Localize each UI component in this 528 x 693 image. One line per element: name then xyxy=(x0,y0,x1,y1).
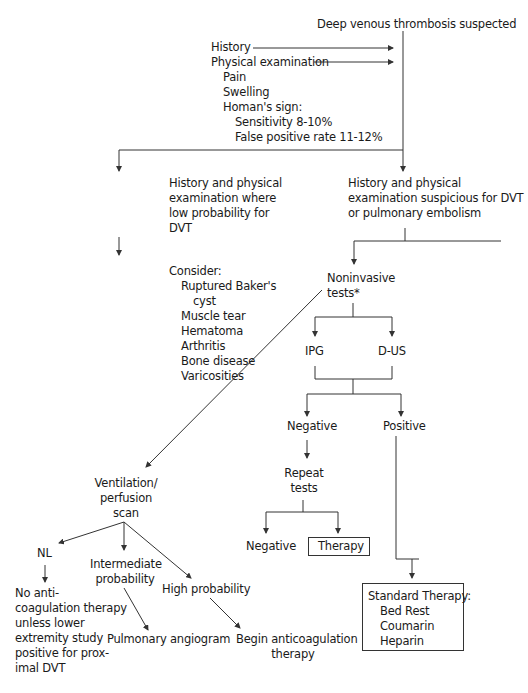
therapy-item: Heparin xyxy=(380,634,424,649)
negative-label: Negative xyxy=(287,419,337,434)
noninvasive-label-2: tests* xyxy=(327,286,360,301)
standard-therapy-title: Standard Therapy: xyxy=(368,589,471,604)
low-prob-line: low probability for xyxy=(169,206,269,221)
exam-item-swelling: Swelling xyxy=(223,85,269,100)
pulmonary-angiogram-label: Pulmonary angiogram xyxy=(107,632,230,647)
title-dvt-suspected: Deep venous thrombosis suspected xyxy=(317,17,516,32)
repeat-tests-label-2: tests xyxy=(282,481,326,496)
nl-result-line: coagulation therapy xyxy=(15,601,127,616)
suspicious-line: or pulmonary embolism xyxy=(348,206,481,221)
therapy-item: Coumarin xyxy=(380,619,434,634)
consider-item: Ruptured Baker's xyxy=(181,279,276,294)
ipg-label: IPG xyxy=(305,344,324,359)
low-prob-line: DVT xyxy=(169,221,192,236)
consider-item: Varicosities xyxy=(181,369,244,384)
therapy-item: Bed Rest xyxy=(380,604,429,619)
exam-item-pain: Pain xyxy=(223,70,246,85)
nl-result-line: unless lower xyxy=(15,616,85,631)
vq-scan-label: Ventilation/ xyxy=(94,476,158,491)
homans-sensitivity: Sensitivity 8-10% xyxy=(235,115,332,130)
noninvasive-label: Noninvasive xyxy=(327,271,395,286)
consider-label: Consider: xyxy=(169,264,222,279)
consider-item: Muscle tear xyxy=(181,309,246,324)
begin-anticoag-label-2: therapy xyxy=(236,647,350,662)
exam-item-homans-sign: Homan's sign: xyxy=(223,100,302,115)
suspicious-line: History and physical xyxy=(348,176,461,191)
nl-result-line: extremity study xyxy=(15,631,103,646)
low-prob-line: examination where xyxy=(169,191,276,206)
positive-label: Positive xyxy=(383,419,426,434)
history-label: History xyxy=(211,40,251,55)
nl-label: NL xyxy=(37,546,52,561)
nl-result-line: imal DVT xyxy=(15,661,65,676)
dus-label: D-US xyxy=(378,344,406,359)
repeat-tests-label: Repeat xyxy=(282,466,326,481)
suspicious-line: examination suspicious for DVT xyxy=(348,191,523,206)
consider-item: cyst xyxy=(193,294,216,309)
high-probability-label: High probability xyxy=(162,582,250,597)
consider-item: Bone disease xyxy=(181,354,255,369)
therapy-box: Therapy xyxy=(308,537,370,556)
consider-item: Hematoma xyxy=(181,324,243,339)
repeat-negative-label: Negative xyxy=(246,539,296,554)
therapy-label: Therapy xyxy=(318,539,364,554)
nl-result-line: No anti- xyxy=(15,586,59,601)
vq-scan-label-2: perfusion xyxy=(94,491,158,506)
vq-scan-label-3: scan xyxy=(94,506,158,521)
standard-therapy-box: Standard Therapy: Bed Rest Coumarin Hepa… xyxy=(362,583,464,651)
intermediate-label: Intermediate xyxy=(90,557,160,572)
begin-anticoag-label: Begin anticoagulation xyxy=(236,632,350,647)
consider-item: Arthritis xyxy=(181,339,225,354)
intermediate-label-2: probability xyxy=(90,572,160,587)
physical-exam-label: Physical examination xyxy=(211,55,329,70)
nl-result-line: positive for prox- xyxy=(15,646,109,661)
low-prob-line: History and physical xyxy=(169,176,282,191)
homans-false-positive: False positive rate 11-12% xyxy=(235,130,382,145)
